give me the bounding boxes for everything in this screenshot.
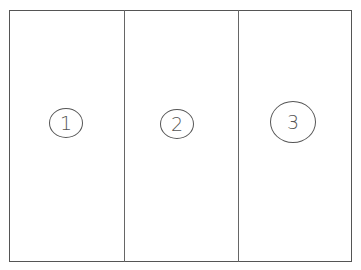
panel-3-number: 3 <box>270 101 316 143</box>
panel-1-label: 1 <box>60 112 72 134</box>
panel-divider-2 <box>238 10 239 262</box>
panel-2-label: 2 <box>171 113 183 135</box>
panel-divider-1 <box>124 10 125 262</box>
panel-1-number: 1 <box>49 108 83 138</box>
panel-2-number: 2 <box>160 109 194 139</box>
panel-3-label: 3 <box>287 111 299 133</box>
